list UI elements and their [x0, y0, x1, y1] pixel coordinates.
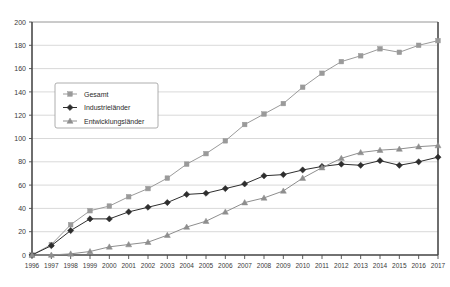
series-line	[32, 41, 438, 255]
y-tick-label: 200	[14, 19, 26, 26]
data-point-square	[223, 139, 228, 144]
y-tick-label: 0	[22, 252, 26, 259]
y-tick-label: 160	[14, 65, 26, 72]
x-tick-label: 2009	[276, 262, 291, 269]
data-point-diamond	[242, 181, 248, 187]
gridlines	[32, 22, 438, 255]
data-point-diamond	[164, 199, 170, 205]
data-point-square	[204, 151, 209, 156]
y-tick-label: 100	[14, 135, 26, 142]
y-tick-label: 120	[14, 112, 26, 119]
x-tick-label: 2017	[431, 262, 446, 269]
x-tick-label: 2016	[411, 262, 426, 269]
x-tick-label: 2003	[160, 262, 175, 269]
x-tick-label: 2007	[237, 262, 252, 269]
data-point-diamond	[145, 204, 151, 210]
data-point-square	[358, 53, 363, 58]
data-point-square	[68, 92, 73, 97]
data-point-square	[397, 50, 402, 55]
x-tick-label: 2000	[102, 262, 117, 269]
data-point-triangle	[203, 218, 209, 223]
x-tick-label: 2004	[179, 262, 194, 269]
data-series	[29, 38, 441, 258]
x-tick-label: 2005	[199, 262, 214, 269]
x-tick-label: 2002	[141, 262, 156, 269]
data-point-diamond	[396, 162, 402, 168]
data-point-triangle	[280, 188, 286, 193]
x-tick-label: 2013	[353, 262, 368, 269]
x-tick-label: 2010	[295, 262, 310, 269]
data-point-diamond	[87, 216, 93, 222]
data-point-diamond	[203, 190, 209, 196]
x-tick-label: 2011	[315, 262, 329, 269]
data-point-square	[436, 38, 441, 43]
x-tick-label: 1998	[63, 262, 78, 269]
data-point-diamond	[416, 159, 422, 165]
data-point-diamond	[106, 216, 112, 222]
data-point-square	[416, 43, 421, 48]
data-point-diamond	[435, 154, 441, 160]
series-line	[32, 157, 438, 255]
chart-canvas: 020406080100120140160180200 199619971998…	[0, 0, 450, 287]
series-industriel-nder	[29, 154, 441, 258]
data-point-square	[339, 59, 344, 64]
x-axis-ticks: 1996199719981999200020012002200320042005…	[25, 255, 446, 269]
data-point-diamond	[280, 172, 286, 178]
data-point-square	[146, 186, 151, 191]
data-point-diamond	[222, 185, 228, 191]
y-tick-label: 20	[18, 228, 26, 235]
data-point-diamond	[300, 167, 306, 173]
y-tick-label: 140	[14, 89, 26, 96]
x-tick-label: 2015	[392, 262, 407, 269]
data-point-diamond	[377, 158, 383, 164]
x-tick-label: 1997	[44, 262, 59, 269]
y-tick-label: 80	[18, 158, 26, 165]
x-tick-label: 2012	[334, 262, 349, 269]
x-tick-label: 2008	[257, 262, 272, 269]
y-tick-label: 40	[18, 205, 26, 212]
x-tick-label: 1996	[25, 262, 40, 269]
data-point-square	[378, 46, 383, 51]
line-chart: 020406080100120140160180200 199619971998…	[0, 0, 450, 287]
data-point-square	[300, 85, 305, 90]
y-tick-label: 180	[14, 42, 26, 49]
data-point-square	[184, 162, 189, 167]
data-point-triangle	[222, 209, 228, 214]
x-tick-label: 2014	[373, 262, 388, 269]
data-point-square	[262, 112, 267, 117]
series-gesamt	[30, 38, 441, 257]
data-point-square	[126, 194, 131, 199]
data-point-square	[165, 176, 170, 181]
data-point-diamond	[126, 209, 132, 215]
data-point-square	[107, 204, 112, 209]
y-tick-label: 60	[18, 182, 26, 189]
data-point-square	[320, 71, 325, 76]
data-point-square	[281, 101, 286, 106]
legend-label: Industrieländer	[84, 104, 131, 111]
data-point-square	[68, 222, 73, 227]
data-point-diamond	[358, 162, 364, 168]
chart-legend: GesamtIndustrieländerEntwicklungsländer	[55, 83, 158, 128]
x-tick-label: 1999	[83, 262, 98, 269]
x-tick-label: 2006	[218, 262, 233, 269]
data-point-triangle	[300, 175, 306, 180]
y-axis-ticks: 020406080100120140160180200	[14, 19, 32, 259]
data-point-diamond	[261, 173, 267, 179]
data-point-diamond	[184, 191, 190, 197]
data-point-square	[88, 208, 93, 213]
x-tick-label: 2001	[121, 262, 136, 269]
legend-label: Entwicklungsländer	[84, 118, 145, 126]
legend-item-gesamt[interactable]: Gesamt	[63, 91, 109, 98]
legend-label: Gesamt	[84, 91, 109, 98]
data-point-square	[242, 122, 247, 127]
